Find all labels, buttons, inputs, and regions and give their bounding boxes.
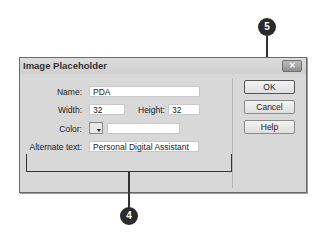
- alternate-text-input[interactable]: Personal Digital Assistant: [89, 141, 199, 152]
- name-input[interactable]: PDA: [89, 86, 200, 97]
- dialog-title: Image Placeholder: [23, 60, 107, 71]
- height-label: Height:: [138, 105, 165, 115]
- alternate-text-label: Alternate text:: [30, 142, 82, 152]
- color-input[interactable]: [107, 123, 180, 134]
- close-button[interactable]: ✕: [282, 60, 302, 72]
- color-picker-button[interactable]: [89, 122, 103, 134]
- image-placeholder-dialog: Image Placeholder ✕ Name: PDA Width: 32 …: [19, 57, 307, 193]
- callout-4: 4: [120, 207, 138, 225]
- width-label: Width:: [58, 105, 82, 115]
- fields-bracket: [26, 154, 232, 172]
- height-input[interactable]: 32: [168, 104, 200, 115]
- ok-button[interactable]: OK: [244, 80, 295, 94]
- width-input[interactable]: 32: [89, 104, 125, 115]
- color-label: Color:: [59, 124, 82, 134]
- help-button[interactable]: Help: [244, 120, 295, 134]
- cancel-button[interactable]: Cancel: [244, 100, 295, 114]
- dropdown-arrow-icon: [97, 129, 101, 132]
- title-bar: Image Placeholder ✕: [20, 58, 306, 74]
- name-label: Name:: [57, 87, 82, 97]
- callout-5: 5: [258, 18, 276, 36]
- vertical-separator: [232, 78, 233, 188]
- callout-4-leader: [128, 172, 130, 208]
